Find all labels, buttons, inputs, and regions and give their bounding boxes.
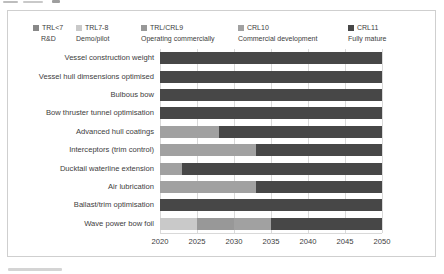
- legend-sublabel: Commercial development: [238, 34, 317, 43]
- gridline: [382, 49, 383, 233]
- category-label: Bow thruster tunnel optimisation: [10, 107, 154, 119]
- category-label: Ducktail waterline extension: [10, 163, 154, 175]
- bar-segment: [256, 144, 382, 156]
- legend-label: TRL7-8: [85, 23, 108, 32]
- cropped-text-artifact: [8, 268, 62, 271]
- bar-segment: [160, 89, 382, 101]
- legend-label: CRL10: [247, 23, 269, 32]
- legend-entry: TRL/CRL9Operating commercially: [141, 23, 215, 43]
- legend-entry: CRL10Commercial development: [238, 23, 317, 43]
- bar-segment: [160, 107, 382, 119]
- legend-swatch-icon: [33, 25, 39, 31]
- category-label: Advanced hull coatings: [10, 126, 154, 138]
- x-axis-tick-label: 2020: [143, 237, 177, 247]
- legend-line: TRL7-8: [76, 23, 109, 32]
- chart-area: TRL<7R&DTRL7-8Demo/pilotTRL/CRL9Operatin…: [7, 10, 436, 257]
- legend-entry: CRL11Fully mature: [348, 23, 387, 43]
- bar-segment: [160, 144, 256, 156]
- legend-line: CRL10: [238, 23, 317, 32]
- x-axis-tick-label: 2045: [328, 237, 362, 247]
- category-label: Interceptors (trim control): [10, 144, 154, 156]
- x-axis-tick-label: 2040: [291, 237, 325, 247]
- x-axis-tick-label: 2035: [254, 237, 288, 247]
- legend-swatch-icon: [76, 25, 82, 31]
- bar-segment: [256, 181, 382, 193]
- legend-swatch-icon: [238, 25, 244, 31]
- bar-segment: [160, 199, 382, 211]
- cropped-text-artifact: [52, 0, 60, 3]
- legend-label: TRL/CRL9: [150, 23, 183, 32]
- bar-segment: [219, 126, 382, 138]
- bar-segment: [160, 52, 382, 64]
- legend-swatch-icon: [141, 25, 147, 31]
- category-label: Vessel hull dimsensions optimised: [10, 71, 154, 83]
- bar-segment: [160, 163, 182, 175]
- legend-label: TRL<7: [42, 23, 63, 32]
- x-axis-tick-label: 2050: [365, 237, 399, 247]
- bar-segment: [160, 181, 256, 193]
- category-label: Bulbous bow: [10, 89, 154, 101]
- bar-segment: [234, 218, 271, 230]
- bar-segment: [160, 126, 219, 138]
- legend-sublabel: R&D: [41, 34, 63, 43]
- legend-label: CRL11: [357, 23, 378, 32]
- legend-line: CRL11: [348, 23, 387, 32]
- bar-segment: [182, 163, 382, 175]
- legend-line: TRL/CRL9: [141, 23, 215, 32]
- x-axis-line: [160, 233, 382, 234]
- legend-sublabel: Fully mature: [348, 34, 387, 43]
- bar-segment: [271, 218, 382, 230]
- category-label: Wave power bow foil: [10, 218, 154, 230]
- legend-entry: TRL<7R&D: [33, 23, 63, 43]
- cropped-text-artifact: [3, 1, 18, 3]
- figure-canvas: TRL<7R&DTRL7-8Demo/pilotTRL/CRL9Operatin…: [0, 0, 444, 274]
- x-axis-tick-label: 2030: [217, 237, 251, 247]
- category-label: Vessel construction weight: [10, 52, 154, 64]
- bar-segment: [197, 218, 234, 230]
- category-label: Ballast/trim optimisation: [10, 199, 154, 211]
- category-label: Air lubrication: [10, 181, 154, 193]
- legend-sublabel: Demo/pilot: [76, 34, 109, 43]
- legend-swatch-icon: [348, 25, 354, 31]
- legend-line: TRL<7: [33, 23, 63, 32]
- x-axis-tick-label: 2025: [180, 237, 214, 247]
- legend-sublabel: Operating commercially: [141, 34, 215, 43]
- bar-segment: [160, 71, 382, 83]
- cropped-text-artifact: [23, 1, 43, 3]
- bar-segment: [160, 218, 197, 230]
- legend-entry: TRL7-8Demo/pilot: [76, 23, 109, 43]
